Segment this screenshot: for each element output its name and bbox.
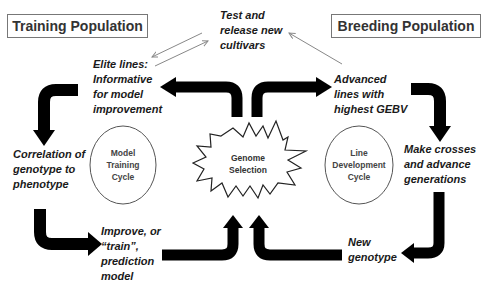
arrow-crosses-to-newgenotype: [401, 192, 439, 263]
label-line: Cycle: [326, 171, 392, 183]
label-line: Elite lines:: [93, 57, 162, 72]
arrow-star-to-elite: [160, 77, 237, 117]
arrow-elite-to-correlation: [33, 90, 78, 146]
label-line: genotype: [348, 250, 397, 265]
label-line: and advance: [404, 157, 476, 172]
label-line: New: [348, 235, 397, 250]
label-line: Selection: [218, 164, 278, 176]
label-line: lines with: [334, 87, 407, 102]
label-line: Correlation of: [13, 147, 85, 162]
label-correlation: Correlation of genotype to phenotype: [13, 147, 85, 192]
label-elite-lines: Elite lines: Informative for model impro…: [93, 57, 162, 117]
label-line: generations: [404, 172, 476, 187]
label-line: genotype to: [13, 162, 85, 177]
training-population-box: Training Population: [7, 14, 148, 38]
label-line: Model: [93, 147, 153, 159]
label-line: release new: [220, 23, 282, 38]
thin-arrow-release-to-elite: [152, 33, 202, 57]
label-line: model: [101, 269, 161, 284]
arrow-newgenotype-to-star: [249, 215, 342, 255]
label-line: Line: [326, 147, 392, 159]
label-new-genotype: New genotype: [348, 235, 397, 265]
genome-selection-label: Genome Selection: [218, 152, 278, 176]
label-line: Development: [326, 159, 392, 171]
label-line: Advanced: [334, 72, 407, 87]
label-advanced-lines: Advanced lines with highest GEBV: [334, 72, 407, 117]
training-population-title: Training Population: [12, 18, 143, 34]
line-development-cycle-label: Line Development Cycle: [326, 147, 392, 183]
model-training-cycle-label: Model Training Cycle: [93, 147, 153, 183]
arrow-improve-to-star: [162, 215, 243, 255]
breeding-population-title: Breeding Population: [338, 18, 475, 34]
label-line: Improve, or: [101, 224, 161, 239]
label-line: Test and: [220, 8, 282, 23]
label-line: Training: [93, 159, 153, 171]
label-line: Genome: [218, 152, 278, 164]
label-line: for model: [93, 87, 162, 102]
label-line: prediction: [101, 254, 161, 269]
breeding-population-box: Breeding Population: [331, 14, 481, 38]
thin-arrow-elite-to-release: [155, 41, 208, 66]
label-improve-model: Improve, or “train”, prediction model: [101, 224, 161, 284]
label-line: Make crosses: [404, 142, 476, 157]
label-line: phenotype: [13, 177, 85, 192]
label-make-crosses: Make crosses and advance generations: [404, 142, 476, 187]
label-line: cultivars: [220, 38, 282, 53]
arrow-star-to-advanced: [257, 77, 332, 117]
label-line: Informative: [93, 72, 162, 87]
label-line: highest GEBV: [334, 102, 407, 117]
label-line: improvement: [93, 102, 162, 117]
arrow-correlation-to-improve: [40, 209, 102, 256]
label-line: Cycle: [93, 171, 153, 183]
arrow-advanced-to-crosses: [411, 89, 451, 142]
label-test-release: Test and release new cultivars: [220, 8, 282, 53]
label-line: “train”,: [101, 239, 161, 254]
